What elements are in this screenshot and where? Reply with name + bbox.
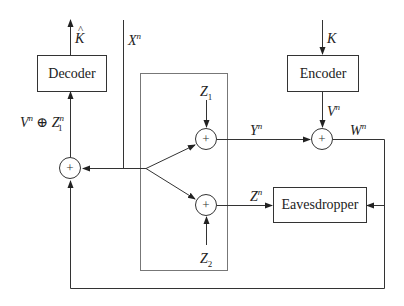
label-v-n: Vn (327, 103, 340, 119)
label-k: K (327, 32, 336, 46)
label-z2: Z2 (200, 252, 212, 269)
diagram-canvas: Decoder Encoder Eavesdropper + + + + K X… (0, 0, 404, 306)
label-y-n: Yn (250, 122, 262, 138)
label-z1: Z1 (200, 85, 212, 102)
adder-vn: + (311, 128, 333, 150)
label-w-n: Wn (350, 122, 366, 138)
label-x-n: Xn (128, 32, 141, 48)
decoder-label: Decoder (48, 66, 95, 82)
adder-z2: + (195, 194, 217, 216)
channel-box (141, 74, 228, 271)
eavesdropper-block: Eavesdropper (273, 187, 367, 223)
adder-z1: + (195, 128, 217, 150)
eavesdropper-label: Eavesdropper (282, 197, 359, 213)
encoder-label: Encoder (300, 66, 347, 82)
decoder-block: Decoder (37, 55, 107, 92)
adder-decoder: + (59, 157, 81, 179)
label-z-n: Zn (250, 188, 262, 204)
label-decoder-input: Vn ⊕ Zn1 (20, 114, 63, 133)
label-k-hat: K (75, 32, 84, 46)
encoder-block: Encoder (287, 55, 359, 92)
